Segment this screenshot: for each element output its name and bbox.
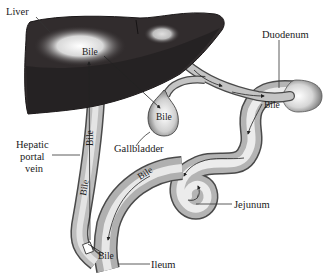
label-duodenum: Duodenum — [262, 29, 309, 40]
label-hepatic: Hepatic — [16, 139, 49, 150]
bile-label-ileum: Bile — [98, 251, 114, 261]
bile-label-portal-upper: Bile — [85, 130, 95, 146]
bile-circulation-diagram: Liver Duodenum Gallbladder Hepatic porta… — [0, 0, 327, 276]
liver — [25, 13, 225, 114]
label-jejunum: Jejunum — [234, 199, 270, 210]
label-gallbladder: Gallbladder — [114, 143, 164, 154]
label-vein: vein — [25, 163, 44, 174]
label-portal: portal — [20, 151, 45, 162]
label-liver: Liver — [6, 6, 29, 17]
bile-label-duodenum: Bile — [264, 100, 280, 110]
bile-label-gallbladder: Bile — [156, 112, 172, 122]
bile-label-liver: Bile — [82, 47, 98, 57]
label-ileum: Ileum — [151, 259, 176, 270]
